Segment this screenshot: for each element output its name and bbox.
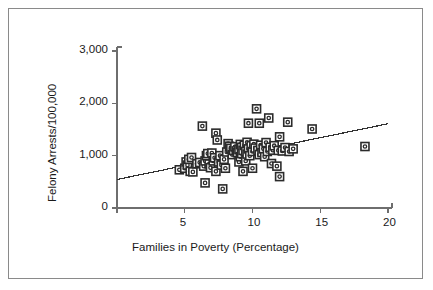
scatter-point [276,133,284,141]
chart-figure: 01,0002,0003,000 5101520 Felony Arrests/… [0,0,433,290]
x-tick-label: 20 [9,217,422,229]
scatter-point [265,114,273,122]
axis-lines [112,47,392,213]
scatter-point [255,119,263,127]
y-tick-label: 0 [102,201,108,213]
scatter-point [361,143,369,151]
scatter-point [201,179,209,187]
y-tick-label: 3,000 [79,44,108,56]
scatter-point [244,119,252,127]
scatter-point [276,173,284,181]
y-tick-label: 2,000 [79,96,108,108]
scatter-point [213,136,221,144]
scatter-point [239,167,247,175]
scatter-plot-canvas [9,9,422,278]
scatter-points [175,105,369,193]
scatter-point [198,122,206,130]
x-axis-title: Families in Poverty (Percentage) [9,242,422,254]
scatter-point [289,145,297,153]
y-axis-title: Felony Arrests/100,000 [47,84,59,202]
y-tick-label: 1,000 [79,149,108,161]
scatter-point [221,164,229,172]
scatter-point [189,168,197,176]
scatter-point [253,105,261,113]
scatter-point [219,185,227,193]
scatter-point [273,162,281,170]
scatter-point [249,164,257,172]
chart-border-frame: 01,0002,0003,000 5101520 Felony Arrests/… [8,8,423,279]
scatter-point [284,118,292,126]
scatter-point [308,125,316,133]
